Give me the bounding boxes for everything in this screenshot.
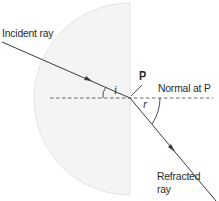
angle-i-label: i [114, 84, 117, 97]
refracted-ray-label-line1: Refracted [157, 170, 200, 183]
refracted-ray-label-line2: ray [157, 183, 171, 196]
point-p-leader [131, 85, 142, 96]
normal-label: Normal at P [158, 82, 211, 95]
angle-r-arc [152, 98, 160, 124]
refraction-diagram: Incident ray i P Normal at P r Refracted… [0, 0, 219, 201]
incident-ray-label: Incident ray [2, 27, 53, 40]
angle-r-label: r [143, 98, 147, 111]
point-p-label: P [139, 70, 146, 83]
